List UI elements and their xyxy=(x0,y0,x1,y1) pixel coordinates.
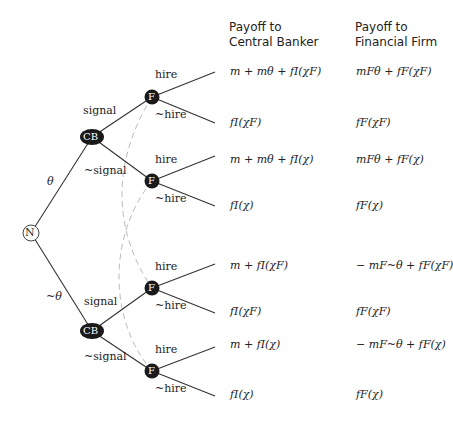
payoff-firm-3: mFθ + fF(χ) xyxy=(356,153,424,166)
header-financial-firm: Payoff to Financial Firm xyxy=(355,20,437,50)
payoff-cb-7: m + fI(χ) xyxy=(230,338,280,351)
header-central-banker: Payoff to Central Banker xyxy=(229,20,319,50)
not-hire-2-label: ~hire xyxy=(155,192,187,205)
payoff-firm-6: fF(χF) xyxy=(356,305,391,318)
payoff-cb-1: m + mθ + fI(χF) xyxy=(230,65,321,78)
edge-signal-top xyxy=(92,97,152,137)
hire-2-label: hire xyxy=(155,153,177,166)
payoff-cb-3: m + mθ + fI(χ) xyxy=(230,153,314,166)
payoff-cb-6: fI(χF) xyxy=(230,305,261,318)
f-node-2-label: F xyxy=(148,175,155,186)
not-hire-1-label: ~hire xyxy=(155,108,187,121)
signal-top-label: signal xyxy=(83,104,116,117)
payoff-firm-4: fF(χ) xyxy=(356,199,383,212)
info-set-not-signal xyxy=(119,181,152,371)
f-node-3-label: F xyxy=(148,282,155,293)
hire-3-label: hire xyxy=(155,260,177,273)
payoff-firm-8: fF(χ) xyxy=(356,388,383,401)
f-node-4-label: F xyxy=(148,365,155,376)
header-cb-line1: Payoff to xyxy=(229,20,319,35)
edge-not-theta xyxy=(31,233,92,331)
payoff-firm-7: − mF~θ + fF(χ) xyxy=(356,338,446,351)
hire-1-label: hire xyxy=(155,68,177,81)
payoff-cb-4: fI(χ) xyxy=(230,199,254,212)
header-firm-line1: Payoff to xyxy=(355,20,437,35)
payoff-cb-5: m + fI(χF) xyxy=(230,259,288,272)
header-cb-line2: Central Banker xyxy=(229,35,319,50)
not-theta-label: ~θ xyxy=(46,290,62,303)
theta-label: θ xyxy=(47,175,54,188)
not-hire-4-label: ~hire xyxy=(155,382,187,395)
not-signal-bottom-label: ~signal xyxy=(84,350,127,363)
f-node-1-label: F xyxy=(148,91,155,102)
signal-bottom-label: signal xyxy=(84,295,117,308)
payoff-firm-2: fF(χF) xyxy=(356,116,391,129)
not-signal-top-label: ~signal xyxy=(84,164,127,177)
info-set-signal xyxy=(122,97,152,288)
payoff-cb-8: fI(χ) xyxy=(230,388,254,401)
not-hire-3-label: ~hire xyxy=(155,299,187,312)
nature-node-label: N xyxy=(25,226,35,239)
payoff-cb-2: fI(χF) xyxy=(230,116,261,129)
edge-theta xyxy=(31,137,92,233)
payoff-firm-5: − mF~θ + fF(χF) xyxy=(356,259,453,272)
cb-node-top-label: CB xyxy=(83,131,98,142)
header-firm-line2: Financial Firm xyxy=(355,35,437,50)
cb-node-bottom-label: CB xyxy=(83,325,98,336)
payoff-firm-1: mFθ + fF(χF) xyxy=(356,65,431,78)
hire-4-label: hire xyxy=(155,343,177,356)
